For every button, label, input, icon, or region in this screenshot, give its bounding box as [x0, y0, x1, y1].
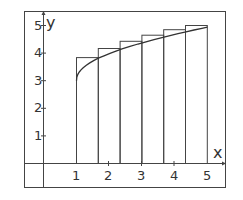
x-tick-label: 5 [203, 168, 211, 183]
y-axis-label: y [46, 13, 55, 32]
plot-frame [25, 12, 226, 188]
x-tick-label: 1 [72, 168, 80, 183]
riemann-rect [98, 49, 120, 164]
y-tick-label: 5 [34, 18, 42, 33]
riemann-rect [186, 26, 208, 164]
x-tick-label: 2 [104, 168, 112, 183]
y-tick-label: 2 [34, 100, 42, 115]
riemann-rect [164, 30, 186, 164]
x-axis-label: x [213, 143, 222, 162]
y-tick-label: 3 [34, 73, 42, 88]
riemann-rect [120, 41, 142, 163]
x-tick-label: 3 [137, 168, 145, 183]
y-tick-label: 1 [34, 128, 42, 143]
riemann-rect [142, 35, 164, 163]
x-tick-label: 4 [170, 168, 178, 183]
riemann-rect [77, 58, 99, 164]
y-tick-label: 4 [34, 45, 42, 60]
riemann-rectangles [77, 26, 208, 164]
riemann-sum-chart: 1 2 3 4 5 1 2 3 4 5 y x [0, 0, 243, 200]
